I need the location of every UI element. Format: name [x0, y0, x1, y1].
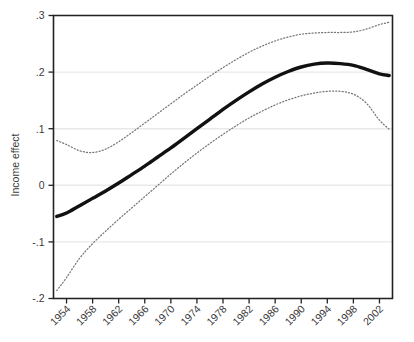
- y-axis-tick-label: .2: [36, 66, 45, 78]
- figure-background: [0, 0, 414, 342]
- y-axis-tick-label: .3: [36, 9, 45, 21]
- y-axis-title: Income effect: [9, 133, 21, 196]
- income-effect-line-chart: .3.2.10-.1-.2 19541958196219661970197419…: [0, 0, 414, 342]
- y-axis-tick-label: .1: [36, 123, 45, 135]
- y-axis-tick-label: -.1: [32, 236, 44, 248]
- y-axis-tick-label: -.2: [32, 292, 44, 304]
- y-axis-tick-label: 0: [39, 179, 45, 191]
- chart-figure: .3.2.10-.1-.2 19541958196219661970197419…: [0, 0, 414, 342]
